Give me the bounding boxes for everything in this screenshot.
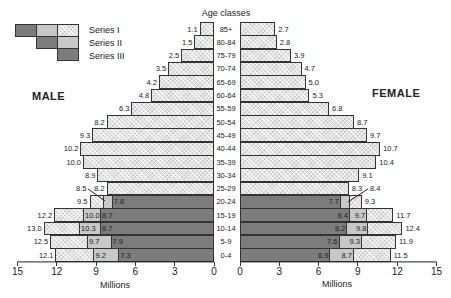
male-value-label: 1.5 xyxy=(174,38,192,47)
female-bar-series-I xyxy=(240,22,275,36)
female-value-label: 4.7 xyxy=(305,64,315,73)
x-axis-tick-label: 0 xyxy=(230,266,250,277)
female-value-label: 11.5 xyxy=(394,251,408,260)
female-bar-series-I xyxy=(240,89,309,103)
male-value-label: 7.3 xyxy=(120,251,130,260)
male-value-label: 10.3 xyxy=(81,224,96,233)
male-value-label: 12.2 xyxy=(34,211,52,220)
male-value-label: 2.5 xyxy=(161,51,179,60)
age-class-label: 45-49 xyxy=(212,131,240,140)
age-class-label: 40-44 xyxy=(212,144,240,153)
female-value-label: 9.3 xyxy=(365,197,375,206)
male-value-label: 7.8 xyxy=(114,197,124,206)
x-axis-tick-label: 3 xyxy=(165,266,185,277)
chart-title: Age classes xyxy=(196,8,256,18)
male-value-label: 8.7 xyxy=(102,211,112,220)
male-value-label: 3.5 xyxy=(148,64,166,73)
male-value-label: 4.2 xyxy=(139,78,157,87)
age-class-label: 65-69 xyxy=(212,78,240,87)
age-class-label: 0-4 xyxy=(212,251,240,260)
male-bar-series-I xyxy=(159,75,214,89)
female-bar-series-I xyxy=(240,115,354,129)
male-value-label: 10.2 xyxy=(60,144,78,153)
male-bar-series-I xyxy=(83,155,214,169)
female-value-label: 12.4 xyxy=(405,224,420,233)
male-bar-series-III xyxy=(112,195,214,209)
female-value-label: 9.7 xyxy=(349,211,365,220)
male-bar-series-I xyxy=(92,128,214,142)
male-bar-series-III xyxy=(118,248,214,262)
female-value-label: 6.8 xyxy=(332,104,342,113)
x-axis-label-male: Millions xyxy=(100,280,130,290)
age-class-label: 5-9 xyxy=(212,237,240,246)
male-bar-series-I xyxy=(151,89,214,103)
male-bar-series-I xyxy=(194,35,214,49)
x-axis-tick-label: 9 xyxy=(86,266,106,277)
male-bar-series-I xyxy=(80,142,214,156)
female-bar-series-I xyxy=(240,75,306,89)
age-class-label: 85+ xyxy=(212,25,240,34)
age-class-label: 25-29 xyxy=(212,184,240,193)
female-value-label: 3.9 xyxy=(294,51,304,60)
female-value-label: 11.9 xyxy=(399,237,413,246)
x-axis-tick-label: 6 xyxy=(309,266,329,277)
legend-swatch-dark xyxy=(57,48,79,61)
male-value-label: 7.9 xyxy=(113,237,123,246)
male-value-label: 8.2 xyxy=(87,118,105,127)
male-bar-series-I xyxy=(97,168,214,182)
male-bar-series-I xyxy=(131,102,214,116)
female-value-label: 2.7 xyxy=(278,25,288,34)
male-value-label: 8.2 xyxy=(87,184,105,193)
age-class-label: 70-74 xyxy=(212,64,240,73)
age-class-label: 10-14 xyxy=(212,224,240,233)
male-value-label: 9.5 xyxy=(70,197,88,206)
male-value-label: 9.7 xyxy=(89,237,99,246)
female-value-label: 9.7 xyxy=(370,131,380,140)
age-class-label: 35-39 xyxy=(212,158,240,167)
male-bar-series-I xyxy=(181,49,214,63)
female-value-label: 8.7 xyxy=(336,251,352,260)
x-axis-label-female: Millions xyxy=(322,279,352,289)
male-value-label: 12.5 xyxy=(30,237,48,246)
x-axis-tick-label: 15 xyxy=(8,266,28,277)
legend-swatch-dark xyxy=(36,36,58,49)
male-value-label: 4.8 xyxy=(131,91,149,100)
female-bar-series-I xyxy=(240,168,359,182)
female-value-label: 11.7 xyxy=(396,211,410,220)
age-class-label: 30-34 xyxy=(212,171,240,180)
male-value-label: 8.9 xyxy=(77,171,95,180)
female-value-label: 7.7 xyxy=(323,197,339,206)
female-value-label: 7.6 xyxy=(322,237,338,246)
male-bar-series-I xyxy=(200,22,214,36)
male-bar-series-I xyxy=(107,115,214,129)
female-bar-series-I xyxy=(240,102,329,116)
female-bar-series-I xyxy=(240,49,291,63)
female-value-label: 8.4 xyxy=(370,184,380,193)
male-value-label: 1.1 xyxy=(180,25,198,34)
male-value-label: 9.3 xyxy=(72,131,90,140)
male-value-label: 10.0 xyxy=(85,211,100,220)
female-value-label: 10.4 xyxy=(379,158,394,167)
female-value-label: 2.8 xyxy=(280,38,290,47)
female-value-label: 9.1 xyxy=(362,171,372,180)
legend-label-series-1: Series I xyxy=(89,25,120,35)
x-axis-tick-label: 15 xyxy=(427,266,447,277)
female-bar-series-I xyxy=(240,128,367,142)
female-bar-series-I xyxy=(240,62,302,76)
female-value-label: 8.2 xyxy=(329,224,345,233)
male-value-label: 6.3 xyxy=(111,104,129,113)
female-value-label: 6.9 xyxy=(312,251,328,260)
female-value-label: 8.4 xyxy=(332,211,348,220)
legend-label-series-2: Series II xyxy=(89,38,122,48)
male-bar-series-I xyxy=(107,182,214,196)
x-axis-tick-label: 6 xyxy=(125,266,145,277)
age-class-label: 50-54 xyxy=(212,118,240,127)
male-value-label: 12.1 xyxy=(35,251,53,260)
female-label: FEMALE xyxy=(372,87,420,99)
legend-label-series-3: Series III xyxy=(89,51,125,61)
age-class-label: 20-24 xyxy=(212,197,240,206)
x-axis-tick-label: 3 xyxy=(269,266,289,277)
female-value-label: 10.7 xyxy=(383,144,398,153)
female-bar-series-I xyxy=(240,35,277,49)
male-value-label: 8.7 xyxy=(102,224,112,233)
